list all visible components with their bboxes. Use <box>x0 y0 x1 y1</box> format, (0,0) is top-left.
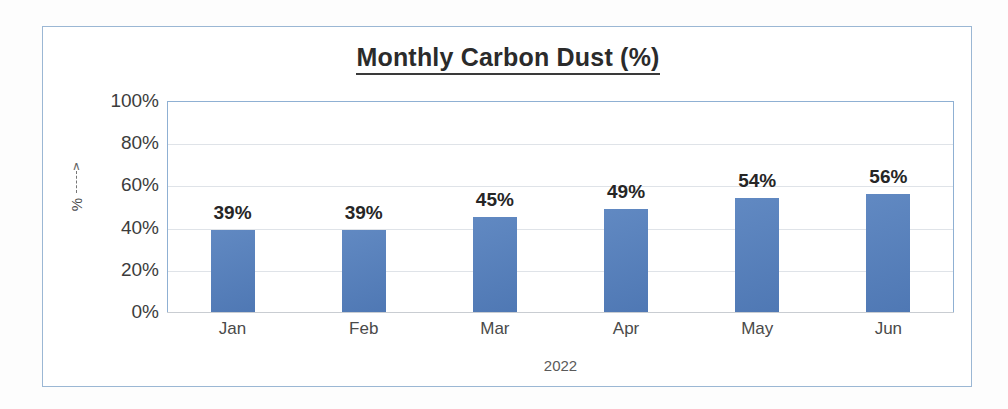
bar[interactable] <box>473 217 517 312</box>
y-axis-title-text: % <box>68 190 85 220</box>
y-axis-tick-label: 100% <box>91 90 159 112</box>
x-axis-tick-label: Jan <box>167 319 298 339</box>
y-axis-tick-label: 0% <box>91 301 159 323</box>
bar[interactable] <box>211 230 255 312</box>
x-axis-tick-label: Feb <box>298 319 429 339</box>
bar-slot: 56% <box>823 101 954 312</box>
bar-data-label: 45% <box>476 189 514 211</box>
bar-data-label: 39% <box>214 202 252 224</box>
x-axis-tick-label: May <box>692 319 823 339</box>
y-axis-tick-label: 20% <box>91 259 159 281</box>
chart-frame: Monthly Carbon Dust (%) ∧ % 100%80%60%40… <box>42 26 972 387</box>
bar[interactable] <box>342 230 386 312</box>
bar[interactable] <box>735 198 779 312</box>
x-axis-tick-label: Apr <box>561 319 692 339</box>
x-axis-baseline <box>167 312 954 313</box>
x-axis-ticks: JanFebMarAprMayJun <box>167 319 954 343</box>
y-axis-ticks: 100%80%60%40%20%0% <box>83 101 159 312</box>
y-axis-tick-label: 80% <box>91 132 159 154</box>
bar-data-label: 39% <box>345 202 383 224</box>
bar[interactable] <box>866 194 910 312</box>
x-axis-tick-label: Jun <box>823 319 954 339</box>
bar-data-label: 56% <box>869 166 907 188</box>
y-axis-tick-label: 40% <box>91 217 159 239</box>
bar-data-label: 49% <box>607 181 645 203</box>
bar[interactable] <box>604 209 648 312</box>
bar-slot: 54% <box>692 101 823 312</box>
bar-slot: 39% <box>167 101 298 312</box>
x-axis-tick-label: Mar <box>429 319 560 339</box>
bar-slot: 45% <box>429 101 560 312</box>
x-axis-title: 2022 <box>167 357 954 374</box>
bar-data-label: 54% <box>738 170 776 192</box>
bar-slot: 39% <box>298 101 429 312</box>
chart-title-text: Monthly Carbon Dust (%) <box>356 43 659 75</box>
chart-title: Monthly Carbon Dust (%) <box>43 43 973 72</box>
bars-layer: 39%39%45%49%54%56% <box>167 101 954 312</box>
y-axis-tick-label: 60% <box>91 174 159 196</box>
bar-slot: 49% <box>561 101 692 312</box>
